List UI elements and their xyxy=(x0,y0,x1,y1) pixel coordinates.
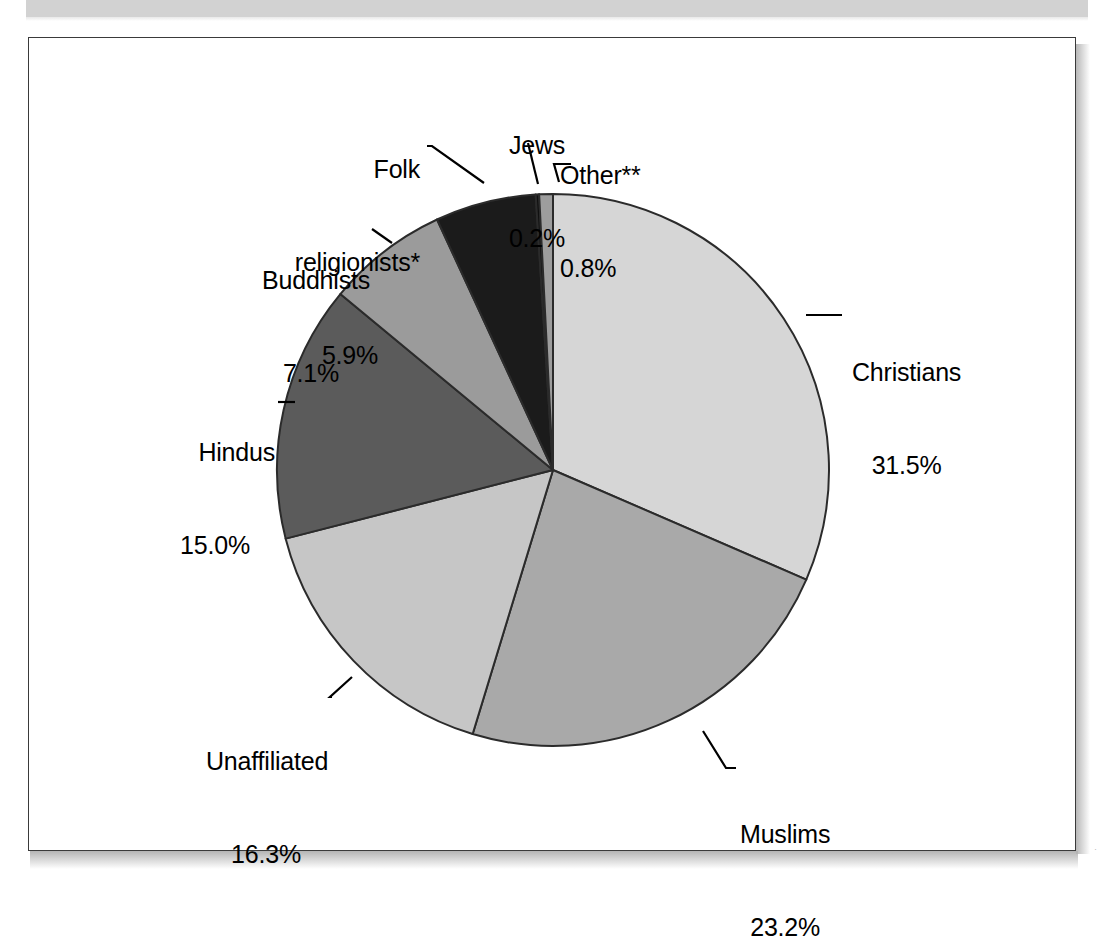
slice-label-unaffiliated: Unaffiliated 16.3% xyxy=(206,684,326,901)
leader-line-unaffiliated xyxy=(330,677,352,697)
slice-label-muslims: Muslims 23.2% xyxy=(740,757,830,940)
slice-label-hindus-percent: 15.0% xyxy=(155,530,275,561)
slice-label-unaffiliated-percent: 16.3% xyxy=(206,839,326,870)
slice-label-folk-percent: 5.9% xyxy=(280,340,420,371)
slice-label-other-percent: 0.8% xyxy=(560,253,680,284)
leader-line-muslims xyxy=(703,731,736,768)
slice-label-unaffiliated-name: Unaffiliated xyxy=(206,746,326,777)
slice-label-christians-percent: 31.5% xyxy=(852,450,961,481)
slice-label-other-name: Other** xyxy=(560,160,680,191)
slice-label-muslims-percent: 23.2% xyxy=(740,912,830,940)
slice-label-hindus-name: Hindus xyxy=(155,437,275,468)
slice-label-muslims-name: Muslims xyxy=(740,819,830,850)
slice-label-folk-name-line2: religionists* xyxy=(280,247,420,278)
slice-label-folk-name-line1: Folk xyxy=(280,154,420,185)
slice-label-christians: Christians 31.5% xyxy=(852,295,961,512)
leader-line-folk xyxy=(427,146,484,183)
slice-label-other: Other** 0.8% xyxy=(560,98,680,315)
slice-label-christians-name: Christians xyxy=(852,357,961,388)
slice-label-folk-religionists: Folk religionists* 5.9% xyxy=(280,92,420,402)
